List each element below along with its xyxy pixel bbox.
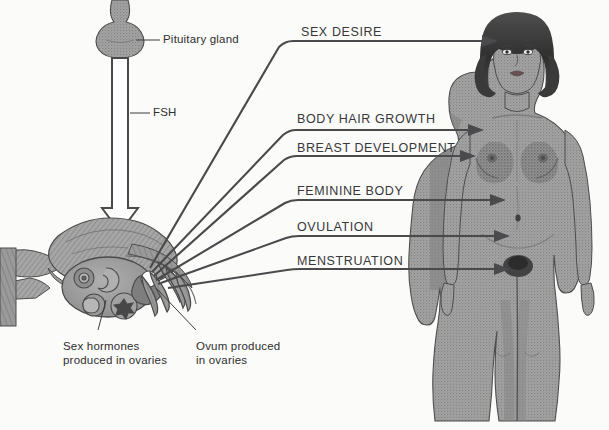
sex-hormones-caption-line2: produced in ovaries [63, 354, 167, 368]
sex-hormones-caption: Sex hormones produced in ovaries [63, 340, 167, 367]
ovum-caption: Ovum produced in ovaries [196, 340, 280, 367]
effect-label-body-hair-growth: BODY HAIR GROWTH [297, 112, 436, 126]
fsh-arrow [102, 58, 138, 232]
fsh-label: FSH [153, 106, 177, 119]
effect-label-breast-development: BREAST DEVELOPMENT [297, 141, 456, 155]
effect-label-sex-desire: SEX DESIRE [301, 25, 382, 39]
sex-hormones-caption-line1: Sex hormones [63, 340, 167, 354]
uterus-ovary-illustration [0, 218, 196, 326]
pituitary-gland-illustration [96, 0, 144, 58]
female-figure-illustration [409, 12, 604, 430]
diagram-canvas: Pituitary gland FSH Sex hormones produce… [0, 0, 609, 430]
effect-label-feminine-body: FEMININE BODY [297, 184, 403, 198]
effect-label-menstruation: MENSTRUATION [297, 254, 403, 268]
ovum-caption-line2: in ovaries [196, 354, 280, 368]
ovum-caption-line1: Ovum produced [196, 340, 280, 354]
pituitary-gland-label: Pituitary gland [163, 33, 239, 46]
effect-label-ovulation: OVULATION [297, 220, 374, 234]
